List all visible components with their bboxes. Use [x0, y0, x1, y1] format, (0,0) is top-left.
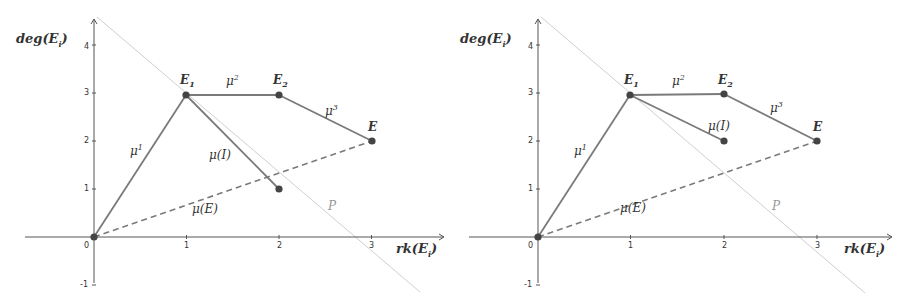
x-tick-1: 1	[184, 242, 189, 250]
y-tick-4: 4	[84, 43, 89, 51]
x-axis-label: rk(Ei)	[844, 242, 885, 258]
e1-point	[626, 91, 633, 98]
mu1-segment	[538, 95, 630, 237]
mu-i-segment	[186, 95, 279, 189]
y-tick-2: 2	[84, 137, 89, 145]
mu3-label: μ3	[770, 101, 783, 114]
mu-i-label: μ(I)	[708, 120, 730, 132]
x-tick-3: 3	[815, 242, 820, 250]
p-label: P	[328, 200, 336, 212]
p-line	[97, 17, 420, 292]
origin-point	[534, 233, 541, 240]
mu-e-label: μ(E)	[192, 203, 218, 215]
e-point	[368, 137, 375, 144]
y-tick-4: 4	[528, 43, 533, 51]
x-tick-1: 1	[628, 242, 633, 250]
p-label: P	[772, 200, 780, 212]
e1-label: E1	[180, 74, 195, 88]
origin-point	[90, 233, 97, 240]
y-tick-3: 3	[528, 89, 533, 97]
e2-point	[720, 90, 727, 97]
y-tick-3: 3	[84, 89, 89, 97]
y-tick-neg1: -1	[80, 281, 88, 289]
x-tick-2: 2	[722, 242, 727, 250]
e-label: E	[368, 121, 377, 133]
mu3-segment	[279, 95, 372, 141]
x-axis-label: rk(Ei)	[396, 242, 437, 258]
mu1-segment	[94, 95, 186, 237]
e-point	[813, 137, 820, 144]
y-tick-neg1: -1	[524, 281, 532, 289]
e1-point	[182, 91, 189, 98]
mu3-label: μ3	[325, 104, 338, 117]
x-tick-0: 0	[84, 242, 89, 250]
y-tick-1: 1	[528, 185, 533, 193]
e-label: E	[813, 121, 822, 133]
y-axis-label: deg(Ei)	[16, 32, 68, 48]
x-tick-2: 2	[277, 242, 282, 250]
mu-i-label: μ(I)	[209, 149, 231, 161]
e2-label: E2	[273, 74, 288, 88]
e2-label: E2	[718, 74, 733, 88]
mu2-label: μ2	[672, 74, 685, 87]
y-tick-2: 2	[528, 137, 533, 145]
mu1-label: μ1	[130, 144, 143, 157]
y-axis-label: deg(Ei)	[460, 32, 512, 48]
p-line	[541, 17, 865, 293]
x-tick-3: 3	[369, 242, 374, 250]
e2-point	[275, 91, 282, 98]
x-tick-0: 0	[528, 242, 533, 250]
left-diagram: deg(Ei) rk(Ei) 0 1 2 3 1 2 3 4 -1 E1 E2 …	[0, 0, 458, 302]
mu2-label: μ2	[226, 74, 239, 87]
i-point	[720, 137, 727, 144]
e1-label: E1	[624, 74, 639, 88]
mu-i-segment	[630, 95, 724, 141]
i-point	[275, 185, 282, 192]
mu1-label: μ1	[574, 144, 587, 157]
y-tick-1: 1	[84, 185, 89, 193]
mu-e-label: μ(E)	[620, 202, 646, 214]
mu2-segment	[630, 94, 724, 95]
right-diagram: deg(Ei) rk(Ei) 0 1 2 3 1 2 3 4 -1 E1 E2 …	[444, 0, 902, 302]
